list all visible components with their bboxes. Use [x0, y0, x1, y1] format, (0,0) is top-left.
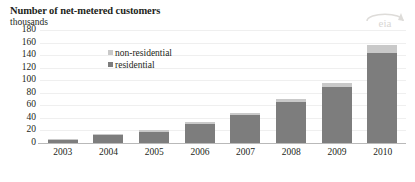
bar-2009[interactable] — [322, 83, 352, 143]
y-tick-40: 40 — [2, 113, 36, 123]
x-tick-2006: 2006 — [177, 147, 223, 158]
bar-segment-residential-2007[interactable] — [230, 115, 260, 143]
bar-2005[interactable] — [139, 130, 169, 143]
bar-segment-residential-2004[interactable] — [93, 135, 123, 143]
bar-segment-non-residential-2003[interactable] — [48, 139, 78, 140]
x-axis: 2003 2004 2005 2006 2007 2008 2009 2010 — [40, 147, 406, 163]
gridline-160 — [40, 43, 406, 44]
y-tick-140: 140 — [2, 50, 36, 60]
chart-container: Number of net-metered customers thousand… — [0, 0, 415, 182]
bar-segment-residential-2008[interactable] — [276, 102, 306, 143]
gridline-100 — [40, 80, 406, 81]
legend-label-residential: residential — [115, 60, 155, 70]
x-axis-line — [38, 143, 406, 144]
bar-segment-non-residential-2004[interactable] — [93, 134, 123, 135]
x-tick-2005: 2005 — [131, 147, 177, 158]
bar-segment-non-residential-2005[interactable] — [139, 130, 169, 131]
chart-legend: non-residential residential — [108, 47, 228, 71]
y-tick-20: 20 — [2, 125, 36, 135]
y-tick-0: 0 — [2, 138, 36, 148]
bar-2008[interactable] — [276, 99, 306, 143]
legend-item-non-residential[interactable]: non-residential — [108, 47, 228, 58]
y-axis: 180 160 140 120 100 80 60 40 20 0 — [0, 30, 36, 143]
legend-swatch-residential — [108, 62, 113, 67]
bar-2010[interactable] — [367, 45, 397, 143]
legend-item-residential[interactable]: residential — [108, 59, 228, 70]
gridline-180 — [40, 30, 406, 31]
bar-2007[interactable] — [230, 113, 260, 143]
x-tick-2003: 2003 — [40, 147, 86, 158]
x-tick-2007: 2007 — [223, 147, 269, 158]
svg-text:eia: eia — [379, 17, 392, 29]
bar-segment-non-residential-2006[interactable] — [185, 122, 215, 124]
legend-swatch-non-residential — [108, 50, 113, 55]
x-tick-2009: 2009 — [314, 147, 360, 158]
bar-segment-non-residential-2008[interactable] — [276, 99, 306, 102]
x-tick-2008: 2008 — [268, 147, 314, 158]
eia-logo: eia — [364, 8, 406, 30]
bar-segment-residential-2005[interactable] — [139, 132, 169, 143]
chart-title: Number of net-metered customers — [10, 5, 160, 16]
bar-2006[interactable] — [185, 122, 215, 143]
bar-segment-non-residential-2010[interactable] — [367, 45, 397, 53]
bar-segment-non-residential-2009[interactable] — [322, 83, 352, 87]
y-tick-80: 80 — [2, 88, 36, 98]
y-tick-160: 160 — [2, 38, 36, 48]
bar-2004[interactable] — [93, 134, 123, 143]
legend-label-non-residential: non-residential — [115, 48, 172, 58]
y-tick-120: 120 — [2, 63, 36, 73]
bar-segment-residential-2010[interactable] — [367, 53, 397, 143]
bar-segment-residential-2009[interactable] — [322, 87, 352, 143]
x-tick-2010: 2010 — [360, 147, 406, 158]
y-tick-180: 180 — [2, 25, 36, 35]
y-tick-100: 100 — [2, 75, 36, 85]
bar-segment-non-residential-2007[interactable] — [230, 113, 260, 115]
x-tick-2004: 2004 — [86, 147, 132, 158]
y-tick-60: 60 — [2, 100, 36, 110]
bar-segment-residential-2006[interactable] — [185, 124, 215, 143]
